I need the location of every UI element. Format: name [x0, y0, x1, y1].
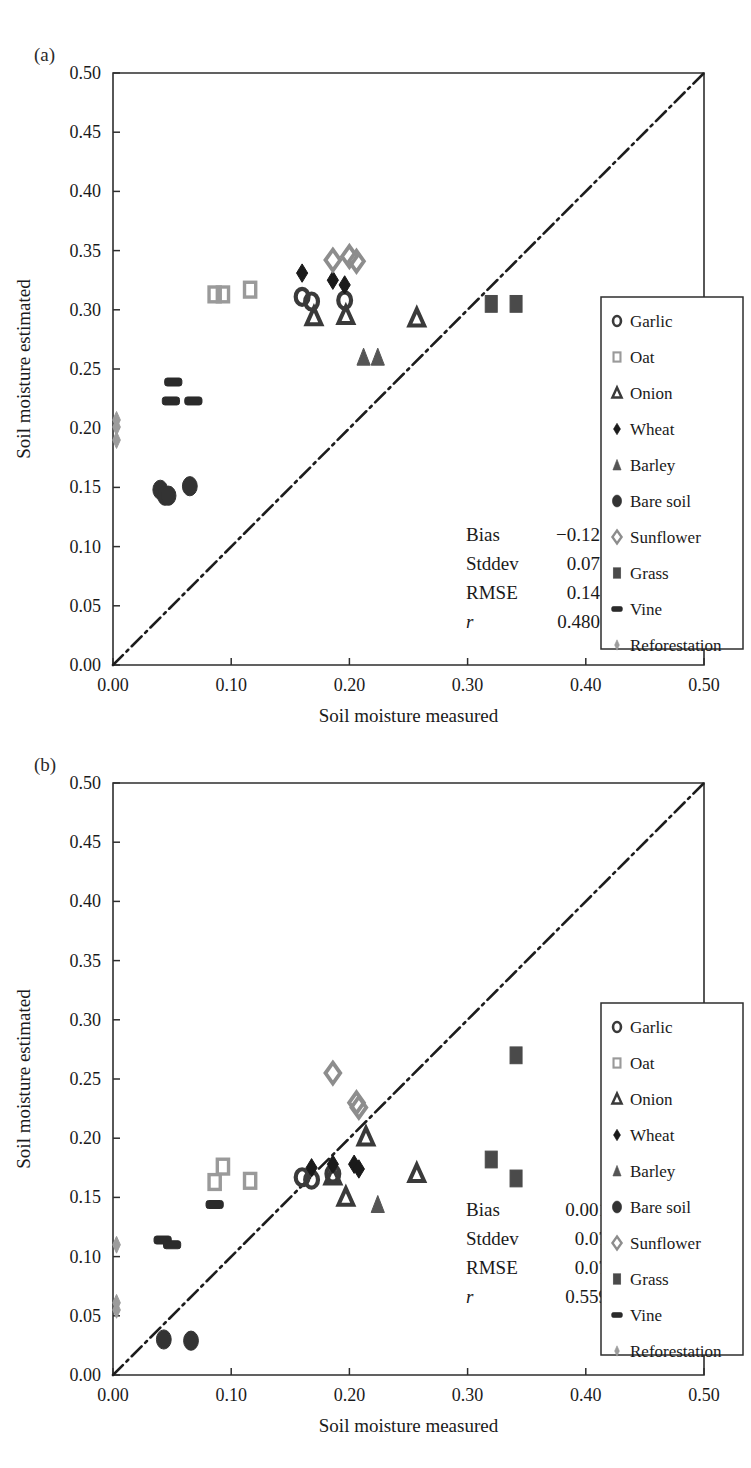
- stat-label: RMSE: [466, 1257, 518, 1278]
- legend-label: Sunflower: [630, 528, 701, 547]
- series-reforestation: [113, 412, 121, 449]
- stat-label: Bias: [466, 1199, 500, 1220]
- y-tick-label: 0.35: [70, 241, 102, 261]
- point-reforestation: [113, 432, 121, 449]
- point-sunflower: [325, 1063, 340, 1084]
- point-vine: [162, 397, 179, 405]
- point-grass: [510, 1170, 522, 1187]
- y-tick-label: 0.25: [70, 359, 102, 379]
- x-axis-title: Soil moisture measured: [319, 1415, 499, 1436]
- series-vine: [162, 378, 202, 405]
- y-tick-label: 0.00: [70, 655, 102, 675]
- legend-marker-ellipse-solid: [612, 495, 621, 507]
- stat-label: Bias: [466, 524, 500, 545]
- point-reforestation: [113, 1236, 121, 1253]
- series-oat: [209, 282, 256, 302]
- point-barley: [357, 348, 370, 365]
- y-tick-label: 0.10: [70, 537, 102, 557]
- y-tick-label: 0.05: [70, 596, 102, 616]
- x-tick-label: 0.20: [334, 675, 366, 695]
- point-barley: [371, 348, 384, 365]
- legend-label: Garlic: [630, 312, 673, 331]
- point-bare-soil: [161, 486, 176, 505]
- x-tick-label: 0.20: [334, 1385, 366, 1405]
- y-tick-label: 0.40: [70, 181, 102, 201]
- x-tick-label: 0.00: [97, 1385, 129, 1405]
- data-points: [113, 1047, 522, 1350]
- point-oat: [245, 282, 256, 297]
- series-grass: [485, 295, 522, 312]
- stat-label: RMSE: [466, 582, 518, 603]
- legend: GarlicOatOnionWheatBarleyBare soilSunflo…: [601, 297, 743, 655]
- stat-label: Stddev: [466, 1228, 519, 1249]
- point-bare-soil: [182, 477, 197, 496]
- legend-label: Bare soil: [630, 492, 691, 511]
- series-barley: [357, 348, 384, 365]
- legend-label: Barley: [630, 456, 676, 475]
- legend-label: Sunflower: [630, 1234, 701, 1253]
- y-tick-label: 0.50: [70, 63, 102, 83]
- legend-marker-bar-solid: [612, 1313, 623, 1318]
- point-onion: [359, 1128, 374, 1144]
- series-vine: [154, 1201, 223, 1249]
- y-axis-title: Soil moisture estimated: [13, 279, 34, 459]
- series-sunflower: [325, 1063, 366, 1118]
- series-sunflower: [325, 246, 363, 272]
- legend-label: Grass: [630, 1270, 669, 1289]
- stat-label: r: [466, 611, 474, 632]
- panel-b: (b) 0.000.050.100.150.200.250.300.350.40…: [0, 710, 751, 1468]
- point-onion: [409, 1165, 424, 1181]
- point-onion: [338, 1188, 353, 1204]
- legend-label: Oat: [630, 1054, 655, 1073]
- y-tick-label: 0.05: [70, 1306, 102, 1326]
- y-axis-title: Soil moisture estimated: [13, 989, 34, 1169]
- point-grass: [485, 1151, 497, 1168]
- x-tick-label: 0.00: [97, 675, 129, 695]
- x-tick-label: 0.40: [570, 1385, 602, 1405]
- legend-label: Reforestation: [630, 636, 722, 655]
- x-tick-label: 0.50: [688, 1385, 720, 1405]
- series-onion: [307, 307, 425, 326]
- stat-value: −0.12: [556, 524, 600, 545]
- legend-label: Wheat: [630, 1126, 675, 1145]
- stat-label: r: [466, 1286, 474, 1307]
- y-tick-label: 0.30: [70, 300, 102, 320]
- panel-a: (a) 0.000.050.100.150.200.250.300.350.40…: [0, 0, 751, 734]
- legend-marker-square-solid: [613, 568, 620, 578]
- point-onion: [409, 309, 424, 325]
- stat-value: 0.480: [557, 611, 600, 632]
- panel-b-plot: 0.000.050.100.150.200.250.300.350.400.45…: [0, 710, 751, 1468]
- legend-label: Vine: [630, 600, 662, 619]
- legend-marker-ellipse-solid: [612, 1201, 621, 1213]
- point-grass: [510, 1047, 522, 1064]
- series-bare-soil: [153, 477, 197, 506]
- point-vine: [164, 1241, 181, 1249]
- point-oat: [209, 1175, 220, 1190]
- x-tick-label: 0.40: [570, 675, 602, 695]
- legend-label: Onion: [630, 384, 673, 403]
- legend-item-reforestation[interactable]: Reforestation: [615, 1342, 722, 1361]
- stat-value: 0.14: [567, 582, 601, 603]
- point-garlic: [305, 294, 318, 310]
- point-bare-soil: [156, 1330, 171, 1349]
- legend-label: Garlic: [630, 1018, 673, 1037]
- legend-label: Reforestation: [630, 1342, 722, 1361]
- point-oat: [217, 287, 228, 302]
- point-vine: [206, 1201, 223, 1209]
- y-tick-label: 0.45: [70, 122, 102, 142]
- y-tick-label: 0.20: [70, 1128, 102, 1148]
- legend-item-reforestation[interactable]: Reforestation: [615, 636, 722, 655]
- y-tick-label: 0.10: [70, 1247, 102, 1267]
- point-grass: [485, 295, 497, 312]
- x-tick-label: 0.10: [215, 675, 247, 695]
- point-sunflower: [349, 251, 364, 272]
- series-reforestation: [113, 1236, 121, 1318]
- x-tick-label: 0.50: [688, 675, 720, 695]
- legend-label: Grass: [630, 564, 669, 583]
- series-grass: [485, 1047, 522, 1187]
- point-oat: [217, 1159, 228, 1174]
- y-tick-label: 0.45: [70, 832, 102, 852]
- x-tick-label: 0.30: [452, 1385, 484, 1405]
- point-grass: [510, 295, 522, 312]
- x-tick-label: 0.30: [452, 675, 484, 695]
